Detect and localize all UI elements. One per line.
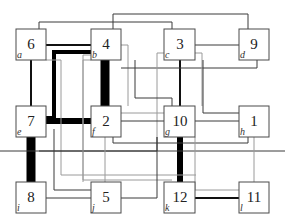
svg-text:l: l: [240, 202, 243, 213]
svg-text:10: 10: [173, 113, 188, 129]
svg-text:6: 6: [27, 36, 35, 52]
edge-light-3: [121, 45, 128, 106]
svg-text:c: c: [165, 49, 170, 60]
node-9: 9 d: [239, 29, 269, 60]
node-4: 4 b: [91, 29, 121, 60]
svg-text:k: k: [165, 202, 170, 213]
svg-text:e: e: [17, 126, 22, 137]
edge-light-7: [135, 60, 172, 106]
edge-light-4: [121, 60, 257, 68]
svg-text:12: 12: [173, 189, 188, 205]
edge-light-5: [157, 53, 164, 137]
node-2: 2 f: [91, 106, 121, 137]
node-8: 8 i: [16, 182, 46, 213]
node-6: 6 a: [16, 29, 46, 60]
node-12: 12 k: [164, 182, 195, 213]
edge-5-12: [121, 137, 157, 198]
svg-text:i: i: [17, 202, 20, 213]
svg-text:5: 5: [102, 189, 110, 205]
svg-text:4: 4: [102, 36, 110, 52]
edge-light-12: [0, 137, 157, 151]
node-5: 5 j: [90, 182, 121, 213]
edge-light-13: [195, 137, 239, 190]
svg-text:b: b: [92, 49, 97, 60]
edge-light-14: [54, 129, 91, 190]
svg-text:1: 1: [250, 113, 258, 129]
node-10: 10 g: [164, 106, 195, 137]
svg-text:7: 7: [27, 113, 35, 129]
svg-text:a: a: [17, 49, 22, 60]
svg-text:g: g: [165, 126, 170, 137]
node-7: 7 e: [16, 106, 46, 137]
svg-text:9: 9: [250, 36, 258, 52]
node-11: 11 l: [239, 182, 269, 213]
svg-text:11: 11: [247, 189, 261, 205]
node-3: 3 c: [164, 29, 195, 60]
svg-text:3: 3: [176, 36, 184, 52]
svg-text:2: 2: [102, 113, 110, 129]
node-1: 1 h: [239, 106, 269, 137]
svg-text:h: h: [240, 126, 245, 137]
facility-layout-diagram: 6 a 4 b 3 c 9 d 7 e 2 f 10 g 1 h 8 i: [0, 0, 285, 223]
svg-text:8: 8: [27, 189, 35, 205]
edge-6-3: [39, 22, 172, 29]
edge-4-7: [46, 52, 91, 118]
edge-light-6: [195, 53, 202, 106]
